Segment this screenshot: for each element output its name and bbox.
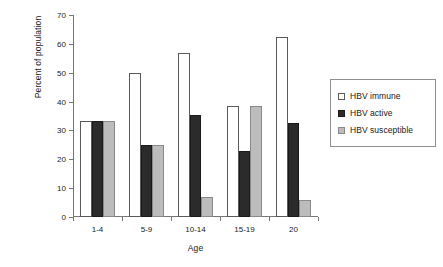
bar — [250, 106, 262, 217]
y-axis-title-text: Percent of population — [33, 16, 43, 98]
x-tick-mark — [171, 217, 172, 221]
bar-group: 15-19 — [227, 15, 262, 217]
legend-item-label: HBV susceptible — [350, 125, 413, 135]
y-tick-mark — [69, 15, 73, 16]
bar — [276, 37, 288, 217]
y-tick-mark — [69, 188, 73, 189]
x-tick-label: 20 — [276, 225, 311, 234]
bar — [152, 145, 164, 217]
legend-item[interactable]: HBV active — [338, 105, 429, 121]
bar — [201, 197, 213, 217]
bar-chart-figure: Percent of population 010203040506070 1-… — [0, 0, 443, 267]
y-tick-mark — [69, 159, 73, 160]
bar — [239, 151, 251, 217]
bar — [288, 123, 300, 217]
x-tick-label: 1-4 — [80, 225, 115, 234]
x-tick-mark — [73, 217, 74, 221]
y-tick-label: 50 — [57, 68, 66, 77]
bar — [227, 106, 239, 217]
y-tick-label: 40 — [57, 97, 66, 106]
x-tick-label: 15-19 — [227, 225, 262, 234]
bar — [92, 121, 104, 217]
x-tick-mark — [269, 217, 270, 221]
legend-swatch-icon — [338, 127, 345, 134]
bar — [141, 145, 153, 217]
x-axis-title: Age — [73, 243, 318, 253]
bar — [80, 121, 92, 217]
y-tick-mark — [69, 102, 73, 103]
bar — [299, 200, 311, 217]
y-tick-label: 10 — [57, 184, 66, 193]
bar — [129, 73, 141, 217]
legend-item[interactable]: HBV immune — [338, 88, 429, 104]
y-tick-label: 60 — [57, 39, 66, 48]
y-tick-label: 20 — [57, 155, 66, 164]
legend-item[interactable]: HBV susceptible — [338, 122, 429, 138]
y-tick-mark — [69, 130, 73, 131]
x-tick-mark — [318, 217, 319, 221]
y-tick-label: 70 — [57, 11, 66, 20]
y-axis-line — [73, 15, 74, 217]
x-tick-mark — [220, 217, 221, 221]
bar — [178, 53, 190, 217]
y-axis-title: Percent of population — [30, 0, 46, 142]
y-tick-label: 0 — [62, 213, 66, 222]
bar-group: 10-14 — [178, 15, 213, 217]
bar-group: 1-4 — [80, 15, 115, 217]
plot-area: 010203040506070 1-45-910-1415-1920 — [73, 15, 318, 217]
x-tick-label: 10-14 — [178, 225, 213, 234]
x-tick-mark — [122, 217, 123, 221]
y-tick-mark — [69, 73, 73, 74]
y-tick-mark — [69, 44, 73, 45]
bar-group: 20 — [276, 15, 311, 217]
bar — [103, 121, 115, 217]
legend-item-label: HBV active — [350, 108, 393, 118]
y-tick-label: 30 — [57, 126, 66, 135]
legend-item-label: HBV immune — [350, 91, 401, 101]
chart-legend: HBV immuneHBV activeHBV susceptible — [330, 79, 436, 147]
legend-swatch-icon — [338, 93, 345, 100]
bar-group: 5-9 — [129, 15, 164, 217]
bar — [190, 115, 202, 217]
legend-swatch-icon — [338, 110, 345, 117]
x-tick-label: 5-9 — [129, 225, 164, 234]
